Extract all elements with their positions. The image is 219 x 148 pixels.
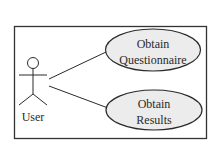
use-case-label-line2: Results bbox=[136, 113, 172, 127]
actor-head bbox=[28, 58, 39, 69]
association-line-results bbox=[49, 86, 108, 108]
use-case-label-line1: Obtain bbox=[137, 37, 170, 51]
association-line-questionnaire bbox=[49, 52, 106, 79]
actor-label: User bbox=[22, 110, 45, 124]
actor-user bbox=[19, 58, 47, 106]
use-case-obtain-questionnaire: Obtain Questionnaire bbox=[106, 29, 201, 71]
actor-right-leg bbox=[33, 94, 47, 105]
use-case-label-line2: Questionnaire bbox=[119, 53, 186, 67]
actor-left-leg bbox=[19, 94, 33, 105]
use-case-diagram: User Obtain Questionnaire Obtain Results bbox=[0, 0, 219, 148]
use-case-obtain-results: Obtain Results bbox=[106, 90, 202, 130]
use-case-label-line1: Obtain bbox=[138, 97, 171, 111]
